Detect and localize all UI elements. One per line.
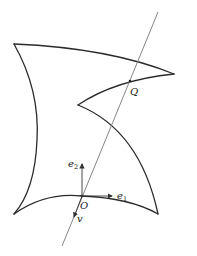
left-edge-curve [14,44,37,214]
label-q: Q [130,86,138,97]
point-q [129,80,132,83]
label-v: v [77,213,83,224]
label-e2: e2 [68,158,78,171]
surface-diagram: Q O e1 e2 v [0,0,197,256]
top-edge-curve [14,44,174,74]
label-o: O [80,200,88,211]
label-e1: e1 [117,190,127,203]
